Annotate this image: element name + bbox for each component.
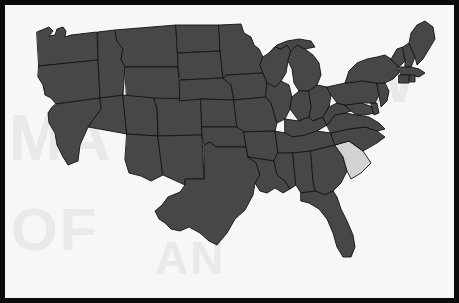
state-RI[interactable] <box>410 75 415 82</box>
us-states-map-svg <box>5 5 454 298</box>
state-FL[interactable] <box>301 191 355 257</box>
state-MI[interactable] <box>288 45 321 91</box>
state-OR[interactable] <box>38 60 100 104</box>
state-WA[interactable] <box>37 27 98 66</box>
state-NE[interactable] <box>180 78 234 101</box>
state-MN[interactable] <box>219 24 263 78</box>
state-ND[interactable] <box>176 25 220 53</box>
state-MT[interactable] <box>115 25 178 67</box>
state-CO[interactable] <box>154 98 202 136</box>
state-KS[interactable] <box>201 99 237 127</box>
states-layer <box>37 21 435 257</box>
state-IN[interactable] <box>290 91 311 121</box>
state-UT-body[interactable] <box>123 95 158 136</box>
state-NM[interactable] <box>158 135 204 185</box>
map-canvas: MA OF W AN <box>5 5 454 298</box>
state-CA[interactable] <box>48 98 101 165</box>
us-choropleth-map-figure: MA OF W AN <box>0 0 459 303</box>
state-NJ[interactable] <box>377 83 389 107</box>
state-CT[interactable] <box>399 75 409 83</box>
state-PA[interactable] <box>327 81 379 105</box>
state-SD[interactable] <box>178 51 223 80</box>
state-AZ[interactable] <box>125 134 163 181</box>
state-AR[interactable] <box>244 131 278 161</box>
